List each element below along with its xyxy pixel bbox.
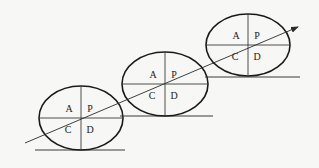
pdca-staircase-diagram: APCDAPCDAPCD: [0, 0, 319, 168]
do-label: D: [86, 124, 93, 135]
plan-label: P: [87, 103, 93, 114]
improvement-arrow: [25, 27, 298, 143]
pdca-cycle-3: APCD: [205, 14, 300, 77]
act-label: A: [149, 69, 157, 80]
pdca-cycle-1: APCD: [35, 86, 125, 150]
do-label: D: [253, 51, 260, 62]
plan-label: P: [254, 30, 260, 41]
do-label: D: [170, 90, 177, 101]
act-label: A: [65, 103, 73, 114]
pdca-cycle-2: APCD: [120, 52, 213, 116]
check-label: C: [149, 90, 156, 101]
act-label: A: [232, 30, 240, 41]
